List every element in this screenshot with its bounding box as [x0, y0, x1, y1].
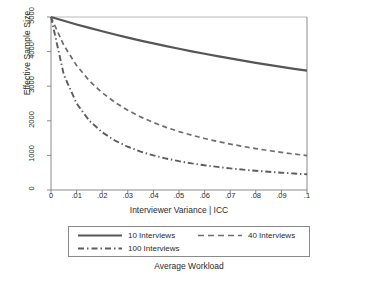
- series-line-40-interviews: [51, 17, 307, 156]
- chart-figure: Effective Sample Size Interviewer Varian…: [0, 0, 371, 285]
- legend-label-100-interviews: 100 Interviews: [128, 244, 180, 253]
- legend-label-10-interviews: 10 Interviews: [128, 231, 175, 240]
- legend-swatch-dashed: [197, 231, 243, 240]
- y-tick-label: 4000: [27, 35, 36, 65]
- y-tick-label: 1000: [27, 139, 36, 169]
- data-series-group: [51, 17, 307, 174]
- series-line-100-interviews: [51, 17, 307, 174]
- y-axis-ticks: [47, 17, 51, 190]
- legend-item-10-interviews[interactable]: 10 Interviews: [77, 231, 175, 240]
- y-tick-label: 2000: [27, 104, 36, 134]
- legend-caption: Average Workload: [68, 261, 310, 271]
- y-tick-label: 3000: [27, 70, 36, 100]
- y-tick-label: 5000: [27, 1, 36, 31]
- legend-item-40-interviews[interactable]: 40 Interviews: [197, 231, 295, 240]
- legend-swatch-dashdot: [77, 244, 123, 253]
- plot-frame: [51, 17, 307, 190]
- y-tick-label: 0: [27, 174, 36, 204]
- series-line-10-interviews: [51, 17, 307, 71]
- legend-item-100-interviews[interactable]: 100 Interviews: [77, 244, 180, 253]
- x-tick-label: .1: [292, 191, 322, 200]
- legend-box: 10 Interviews 40 Interviews 100 Intervie…: [68, 226, 310, 257]
- x-axis-title: Interviewer Variance | ICC: [51, 205, 307, 215]
- legend-swatch-solid: [77, 231, 123, 240]
- legend-label-40-interviews: 40 Interviews: [248, 231, 295, 240]
